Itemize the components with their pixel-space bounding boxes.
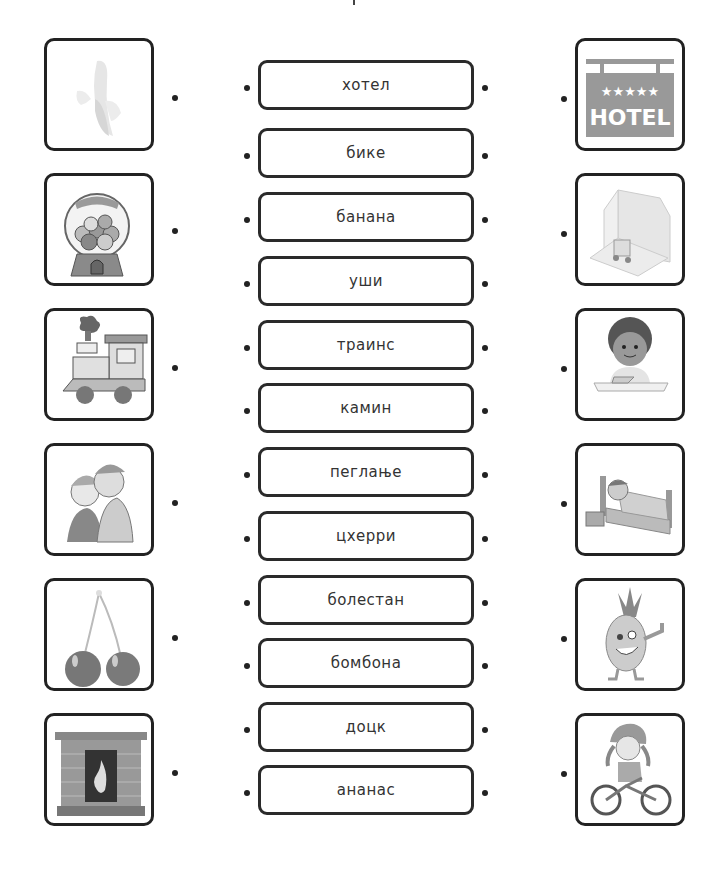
word-card: хотел [258,60,474,110]
connector-dot[interactable] [482,600,488,606]
word-card: бике [258,128,474,178]
picture-train [44,308,154,421]
connector-dot[interactable] [482,663,488,669]
picture-ears [44,443,154,556]
dock-icon [578,176,682,283]
sick-icon [578,446,682,553]
cherry-icon [47,581,151,688]
word-card: цхерри [258,511,474,561]
svg-text:HOTEL: HOTEL [589,105,670,130]
picture-hotel: ★★★★★ HOTEL [575,38,685,151]
connector-dot[interactable] [561,636,567,642]
connector-dot[interactable] [482,727,488,733]
banana-icon [47,41,151,148]
page-mark [353,0,355,5]
connector-dot[interactable] [172,770,178,776]
connector-dot[interactable] [172,500,178,506]
connector-dot[interactable] [561,771,567,777]
connector-dot[interactable] [244,217,250,223]
picture-ironing [575,308,685,421]
connector-dot[interactable] [482,408,488,414]
word-card: ананас [258,765,474,815]
connector-dot[interactable] [482,536,488,542]
connector-dot[interactable] [244,153,250,159]
word-card: банана [258,192,474,242]
svg-text:★★★★★: ★★★★★ [601,84,659,99]
connector-dot[interactable] [244,663,250,669]
connector-dot[interactable] [244,345,250,351]
word-card: траинс [258,320,474,370]
connector-dot[interactable] [172,228,178,234]
picture-bike [575,713,685,826]
word-card: пеглање [258,447,474,497]
ironing-icon [578,311,682,418]
connector-dot[interactable] [482,217,488,223]
connector-dot[interactable] [482,85,488,91]
connector-dot[interactable] [561,231,567,237]
connector-dot[interactable] [482,281,488,287]
picture-banana [44,38,154,151]
connector-dot[interactable] [482,153,488,159]
connector-dot[interactable] [244,727,250,733]
hotel-icon: ★★★★★ HOTEL [578,41,682,148]
connector-dot[interactable] [561,96,567,102]
word-card: камин [258,383,474,433]
connector-dot[interactable] [244,408,250,414]
fireplace-icon [47,716,151,823]
connector-dot[interactable] [244,472,250,478]
connector-dot[interactable] [482,790,488,796]
picture-fireplace [44,713,154,826]
connector-dot[interactable] [172,365,178,371]
train-icon [47,311,151,418]
connector-dot[interactable] [244,790,250,796]
word-card: болестан [258,575,474,625]
pineapple-icon [578,581,682,688]
word-card: бомбона [258,638,474,688]
bike-icon [578,716,682,823]
candy-icon [47,176,151,283]
connector-dot[interactable] [244,281,250,287]
connector-dot[interactable] [482,472,488,478]
connector-dot[interactable] [172,635,178,641]
picture-dock [575,173,685,286]
connector-dot[interactable] [244,600,250,606]
connector-dot[interactable] [172,95,178,101]
connector-dot[interactable] [244,536,250,542]
ears-icon [47,446,151,553]
connector-dot[interactable] [482,345,488,351]
word-card: уши [258,256,474,306]
picture-sick [575,443,685,556]
picture-cherries [44,578,154,691]
connector-dot[interactable] [561,366,567,372]
picture-pineapple [575,578,685,691]
picture-gumball [44,173,154,286]
word-card: доцк [258,702,474,752]
connector-dot[interactable] [244,85,250,91]
connector-dot[interactable] [561,501,567,507]
